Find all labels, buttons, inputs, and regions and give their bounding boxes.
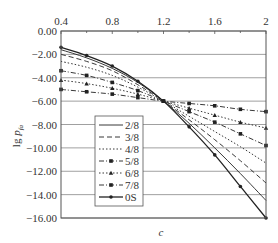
series-0S xyxy=(59,46,268,220)
x-tick-label: 0.8 xyxy=(105,15,119,27)
y-axis-label: lg pfa xyxy=(10,124,25,147)
series-2-8 xyxy=(61,50,266,201)
y-tick-label: −6.00 xyxy=(32,95,58,107)
series-group xyxy=(59,46,268,220)
legend-label: 3/8 xyxy=(125,131,140,143)
legend-label: 0S xyxy=(125,191,137,203)
line-chart: 0.40.81.21.62 0.00−2.00−4.00−6.00−8.00−1… xyxy=(0,0,278,243)
y-tick-label: −8.00 xyxy=(32,119,58,131)
y-tick-label: −10.00 xyxy=(26,142,57,154)
legend-label: 6/8 xyxy=(125,167,140,179)
grid-lines xyxy=(61,31,266,218)
series-6-8 xyxy=(59,78,268,130)
y-tick-label: −4.00 xyxy=(32,72,58,84)
y-axis-ticks: 0.00−2.00−4.00−6.00−8.00−10.00−12.00−14.… xyxy=(26,25,57,224)
x-axis-label: c xyxy=(159,226,164,238)
x-tick-label: 1.6 xyxy=(208,15,222,27)
y-tick-label: −16.00 xyxy=(26,212,57,224)
y-tick-label: −2.00 xyxy=(32,48,58,60)
legend-label: 7/8 xyxy=(125,179,140,191)
legend-label: 5/8 xyxy=(125,155,140,167)
legend: 2/83/84/85/86/87/80S xyxy=(95,116,143,206)
x-tick-label: 2 xyxy=(263,15,269,27)
legend-label: 2/8 xyxy=(125,119,140,131)
svg-text:lg pfa: lg pfa xyxy=(10,124,25,147)
series-3-8 xyxy=(61,54,266,183)
y-tick-label: 0.00 xyxy=(38,25,58,37)
series-5-8 xyxy=(59,69,268,147)
y-tick-label: −12.00 xyxy=(26,165,57,177)
x-tick-label: 1.2 xyxy=(157,15,171,27)
legend-label: 4/8 xyxy=(125,143,140,155)
y-tick-label: −14.00 xyxy=(26,189,57,201)
